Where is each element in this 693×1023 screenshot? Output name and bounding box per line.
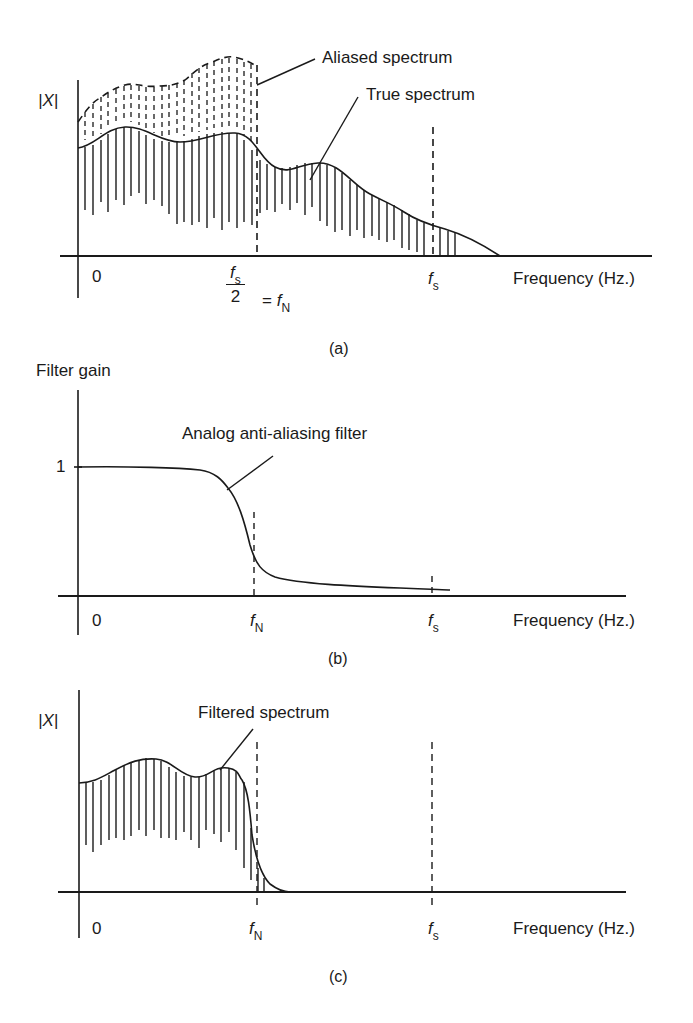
panel-a-true-spectrum-hatch (85, 127, 455, 256)
panel-a-fs-over-2: fs 2 (226, 264, 245, 305)
panel-c-x-label: Frequency (Hz.) (513, 920, 635, 937)
panel-a-nyquist-equals: = fN (262, 292, 290, 309)
panel-a-origin-label: 0 (92, 268, 101, 285)
panel-b-y-label: Filter gain (36, 362, 111, 379)
panel-a-aliased-annotation: Aliased spectrum (322, 49, 452, 66)
panel-a-x-label: Frequency (Hz.) (513, 270, 635, 287)
panel-c-origin-label: 0 (92, 920, 101, 937)
panel-b-x-label: Frequency (Hz.) (513, 612, 635, 629)
panel-c-fn-label: fN (249, 920, 262, 937)
panel-a-aliased-spectrum-hatch (85, 58, 251, 142)
panel-b-origin-label: 0 (92, 612, 101, 629)
panel-a-true-spectrum-curve (78, 127, 500, 256)
panel-a-caption: (a) (329, 340, 349, 358)
figure-graphics (0, 0, 693, 1023)
panel-a-fs-label: fs (428, 270, 439, 287)
panel-b-filter-leader (227, 456, 273, 490)
panel-c-caption: (c) (329, 968, 348, 986)
panel-b-fn-label: fN (250, 612, 263, 629)
panel-c-plot (58, 690, 626, 938)
panel-b-y-tick-label: 1 (56, 458, 65, 475)
panel-b-fs-label: fs (428, 612, 439, 629)
panel-c-filtered-hatch (86, 758, 264, 892)
panel-a-true-annotation: True spectrum (366, 86, 475, 103)
panel-a-aliased-leader (257, 59, 315, 85)
panel-b-filter-curve (78, 467, 450, 590)
panel-a-y-label: |X| (38, 92, 58, 109)
panel-c-fs-label: fs (428, 920, 439, 937)
panel-b-caption: (b) (328, 650, 348, 668)
panel-c-filtered-annotation: Filtered spectrum (198, 704, 329, 721)
panel-a-plot (60, 57, 652, 298)
panel-b-filter-annotation: Analog anti-aliasing filter (182, 425, 367, 442)
panel-c-y-label: |X| (38, 712, 58, 729)
panel-c-filtered-leader (220, 729, 253, 770)
